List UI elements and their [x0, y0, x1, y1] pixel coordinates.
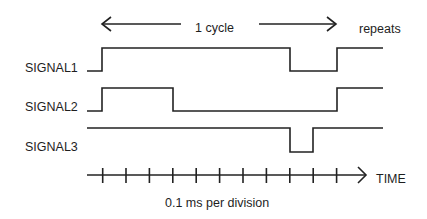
- time-axis-label: TIME: [376, 172, 406, 186]
- time-axis: [87, 167, 366, 183]
- cycle-arrow-right: [259, 17, 336, 31]
- signal1-waveform: [87, 48, 383, 71]
- signal3-label: SIGNAL3: [25, 140, 78, 154]
- signal2-label: SIGNAL2: [25, 100, 78, 114]
- signal3-waveform: [87, 128, 383, 152]
- scale-label: 0.1 ms per division: [165, 196, 269, 210]
- signal1-label: SIGNAL1: [25, 61, 78, 75]
- repeats-label: repeats: [359, 22, 401, 36]
- cycle-label: 1 cycle: [195, 21, 234, 35]
- cycle-arrow-left: [102, 17, 181, 31]
- signal2-waveform: [87, 88, 383, 111]
